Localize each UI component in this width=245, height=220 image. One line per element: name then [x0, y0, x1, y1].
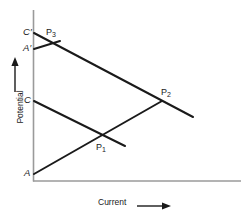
label-p3: P3	[46, 28, 56, 37]
series-cathodic-line-from-C-prime	[34, 33, 193, 117]
label-p2: P2	[161, 88, 171, 97]
label-a: A	[24, 168, 30, 178]
label-c: C	[24, 95, 31, 105]
label-p1-sub: 1	[102, 146, 106, 153]
label-p3-sub: 3	[52, 31, 56, 38]
polarization-diagram-figure: Potential Current C′ A′ C A P1 P2 P3	[0, 0, 245, 220]
plot-canvas	[0, 0, 245, 220]
label-a-prime: A′	[23, 43, 31, 53]
series-cathodic-line-from-C	[34, 101, 125, 146]
label-p1: P1	[96, 143, 106, 152]
label-c-prime: C′	[23, 27, 32, 37]
label-p2-sub: 2	[167, 91, 171, 98]
y-axis-title-wrap: Potential	[9, 77, 23, 137]
x-axis-title: Current	[98, 198, 126, 207]
x-axis-arrow-right-icon	[137, 202, 171, 209]
series-anodic-line-from-A	[34, 101, 162, 174]
